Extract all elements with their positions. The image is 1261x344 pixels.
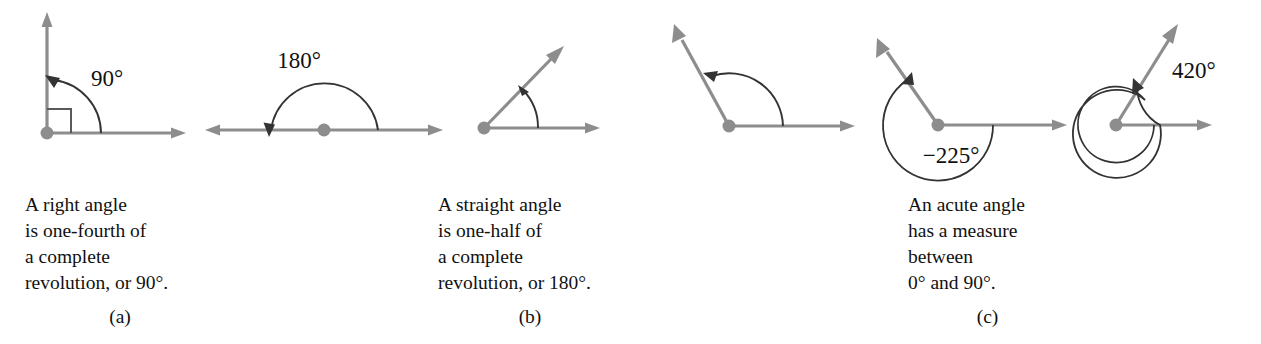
ray-terminal <box>682 40 729 126</box>
angle-figure: 90° A right angle is one-fourth of a com… <box>0 0 1261 344</box>
arrowhead-initial-icon <box>840 121 855 132</box>
revolution-spiral-arc <box>1073 86 1161 178</box>
arrowhead-terminal-icon <box>1162 24 1178 44</box>
diagram-acute-angle <box>440 0 655 190</box>
angle-measure-label: 420° <box>1172 58 1216 83</box>
diagram-obtuse-angle <box>650 0 865 190</box>
arrowhead-vertical-icon <box>42 12 53 27</box>
diagram-negative-225: −225° <box>855 0 1070 190</box>
arrowhead-initial-icon <box>1197 120 1212 131</box>
vertex-dot <box>932 119 945 132</box>
angle-measure-label: 90° <box>91 66 123 91</box>
vertex-dot <box>41 127 54 140</box>
panel-e: −225° This indicates an angle of measure… <box>855 0 1070 344</box>
angle-measure-label: 180° <box>277 48 321 73</box>
panel-f: 420° This indicates an angle of measure … <box>1050 0 1261 344</box>
diagram-straight-angle: 180° <box>195 0 455 190</box>
arrowhead-initial-icon <box>585 123 600 134</box>
panel-d: An obtuse angle has a measure between 90… <box>650 0 865 344</box>
diagram-right-angle: 90° <box>0 0 215 190</box>
angle-arc <box>271 83 378 130</box>
angle-measure-label: −225° <box>923 143 980 168</box>
ray-terminal <box>484 57 553 128</box>
panel-a: 90° A right angle is one-fourth of a com… <box>0 0 215 344</box>
angle-arc <box>712 73 783 126</box>
vertex-dot <box>318 124 331 137</box>
angle-arc <box>523 90 538 128</box>
vertex-dot <box>1110 119 1123 132</box>
panel-c: An acute angle has a measure between 0° … <box>440 0 655 344</box>
ray-terminal <box>887 52 938 125</box>
panel-b: 180° A straight angle is one-half of a c… <box>195 0 455 344</box>
diagram-420: 420° <box>1050 0 1261 190</box>
vertex-dot <box>478 122 491 135</box>
arrowhead-left-icon <box>205 125 220 136</box>
ray-terminal <box>1116 38 1170 125</box>
vertex-dot <box>723 120 736 133</box>
arrowhead-horizontal-icon <box>171 128 186 139</box>
